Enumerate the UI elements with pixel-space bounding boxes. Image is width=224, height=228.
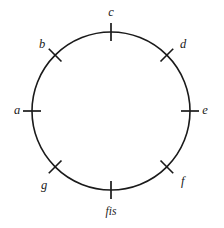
label-c: c	[108, 5, 114, 19]
label-b: b	[39, 37, 45, 51]
label-a: a	[14, 103, 20, 117]
label-d: d	[180, 37, 187, 51]
diagram-canvas: cdeffisgab	[0, 0, 224, 228]
circle-diagram: cdeffisgab	[0, 0, 224, 228]
tick-marks-group	[23, 23, 199, 199]
label-g: g	[41, 178, 47, 192]
label-fis: fis	[106, 205, 117, 218]
label-e: e	[202, 103, 208, 117]
label-f: f	[181, 174, 186, 188]
